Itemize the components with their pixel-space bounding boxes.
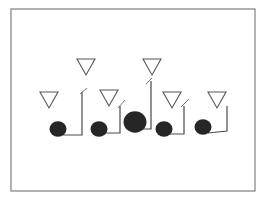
play-diagram [0, 0, 266, 198]
figure-caption [10, 192, 256, 198]
offensive-player-circle-icon [124, 111, 147, 132]
offensive-player-circle-icon [91, 121, 108, 136]
offensive-player-circle-icon [156, 121, 173, 136]
offensive-player-circle-icon [195, 119, 212, 134]
offensive-player-circle-icon [50, 121, 67, 136]
